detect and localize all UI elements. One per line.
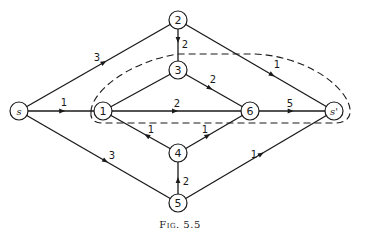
capacity-s-2: 3 [94, 52, 100, 63]
capacity-5-sprime: 1 [251, 149, 257, 160]
node-1-label: 1 [100, 105, 107, 118]
edge-2-sprime [178, 20, 334, 111]
arrowhead-icon [102, 157, 108, 162]
capacity-6-sprime: 5 [287, 98, 293, 109]
node-sprime-label: s' [330, 106, 338, 117]
edge-4-1 [103, 111, 178, 153]
capacity-2-3: 2 [182, 39, 188, 50]
arrowhead-icon [288, 109, 294, 114]
node-s: s [10, 102, 28, 120]
arrowhead-icon [268, 71, 274, 76]
arrowhead-icon [206, 85, 212, 90]
capacity-4-1: 1 [148, 124, 154, 135]
capacity-s-1: 1 [61, 97, 67, 108]
capacity-5-4: 2 [183, 176, 189, 187]
edge-s-2 [19, 20, 178, 111]
arrowhead-icon [176, 177, 181, 183]
arrowhead-icon [176, 37, 181, 43]
node-1: 1 [94, 102, 112, 120]
arrowhead-icon [144, 134, 150, 139]
node-4-label: 4 [175, 147, 182, 160]
node-3: 3 [169, 61, 187, 79]
capacity-1-6: 2 [174, 98, 180, 109]
node-6-label: 6 [247, 105, 254, 118]
node-5-label: 5 [175, 197, 182, 210]
node-2: 2 [169, 11, 187, 29]
capacity-3-6: 2 [210, 74, 216, 85]
capacity-2-sprime: 1 [274, 59, 280, 70]
node-6: 6 [241, 102, 259, 120]
cut-boundary [91, 54, 350, 123]
figure-caption: Fig. 5.5 [159, 219, 201, 230]
node-2-label: 2 [175, 14, 182, 27]
node-4: 4 [169, 144, 187, 162]
network-flow-diagram: 3 1 3 2 1 2 2 1 1 2 1 5 s 1 2 3 4 [0, 0, 365, 235]
node-5: 5 [169, 194, 187, 212]
node-3-label: 3 [175, 64, 182, 77]
arrowhead-icon [257, 152, 263, 157]
node-sprime: s' [325, 102, 343, 120]
arrowhead-icon [172, 109, 178, 114]
node-s-label: s [16, 106, 21, 117]
arrowhead-icon [59, 109, 65, 114]
edge-1-3 [103, 70, 178, 111]
capacity-s-5: 3 [109, 150, 115, 161]
capacity-4-6: 1 [202, 124, 208, 135]
arrowhead-icon [100, 61, 106, 66]
edge-4-6 [178, 111, 250, 153]
arrowhead-icon [204, 134, 210, 139]
